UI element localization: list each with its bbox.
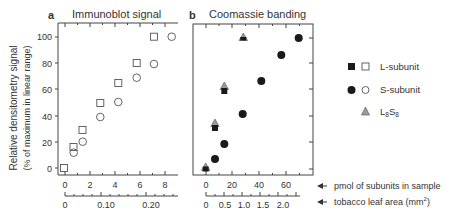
legend-item-l8s8: L8S8 [362, 106, 400, 118]
svg-text:4: 4 [112, 180, 117, 190]
svg-text:40: 40 [42, 112, 52, 122]
svg-text:L-subunit: L-subunit [380, 61, 419, 72]
svg-text:1.5: 1.5 [257, 200, 270, 210]
data-point [212, 125, 218, 131]
filled-square-icon [348, 63, 355, 70]
svg-text:0: 0 [203, 180, 208, 190]
svg-text:2.0: 2.0 [277, 200, 290, 210]
data-point [133, 74, 141, 82]
svg-text:0: 0 [62, 200, 67, 210]
open-circle-icon [362, 87, 369, 94]
triangle-icon [362, 107, 370, 115]
data-point [257, 77, 265, 85]
open-square-icon [362, 63, 369, 70]
data-point [79, 127, 86, 134]
y-axis-label: Relative densitometry signal [8, 45, 19, 170]
panel-b-letter: b [189, 9, 196, 21]
svg-text:0: 0 [47, 164, 52, 174]
svg-text:60: 60 [281, 180, 291, 190]
data-point [150, 60, 158, 68]
data-point [151, 33, 158, 40]
data-point [115, 98, 123, 106]
svg-text:L8S8: L8S8 [380, 106, 399, 118]
panel-b-series-s-subunit [211, 34, 303, 163]
svg-text:0: 0 [203, 200, 208, 210]
data-point [221, 88, 227, 94]
panel-b-title: Coomassie banding [209, 8, 306, 20]
svg-text:6: 6 [137, 180, 142, 190]
filled-circle-icon [348, 86, 356, 94]
data-point [277, 51, 285, 59]
data-point [240, 37, 246, 41]
svg-text:pmol of subunits in sample: pmol of subunits in sample [334, 181, 441, 191]
svg-text:0.20: 0.20 [142, 200, 160, 210]
svg-text:0.10: 0.10 [97, 200, 115, 210]
data-point [115, 80, 122, 87]
panel-b-series-l8s8 [202, 33, 248, 171]
svg-text:8: 8 [162, 180, 167, 190]
panel-a-axes [55, 23, 178, 196]
svg-text:60: 60 [42, 85, 52, 95]
data-point [79, 138, 87, 146]
y-tick-labels: 0 20 40 60 80 100 [37, 32, 52, 174]
svg-text:2: 2 [87, 180, 92, 190]
svg-text:1.0: 1.0 [238, 200, 251, 210]
data-point [133, 60, 140, 67]
panel-a-title: Immunoblot signal [72, 8, 161, 20]
panel-b-series-l-subunit [203, 37, 247, 172]
svg-text:40: 40 [254, 180, 264, 190]
data-point [97, 100, 104, 107]
svg-text:100: 100 [37, 32, 52, 42]
svg-text:20: 20 [42, 138, 52, 148]
figure: a Immunoblot signal b Coomassie banding … [0, 0, 453, 218]
panel-b-axes [193, 24, 313, 196]
svg-text:S-subunit: S-subunit [380, 84, 420, 95]
data-point [97, 113, 105, 121]
data-point [211, 155, 219, 163]
panel-a-letter: a [48, 9, 55, 21]
legend-item-s-subunit: S-subunit [348, 84, 421, 95]
data-point [220, 140, 228, 148]
legend-item-l-subunit: L-subunit [348, 61, 419, 72]
data-point [295, 34, 303, 42]
svg-text:tobacco leaf area (mm2): tobacco leaf area (mm2) [334, 196, 430, 207]
y-axis-sublabel: (% of maximum in linear range) [22, 45, 32, 170]
svg-text:0: 0 [62, 180, 67, 190]
data-point [203, 167, 209, 172]
svg-text:20: 20 [227, 180, 237, 190]
axis-note-primary: pmol of subunits in sample [317, 181, 441, 191]
panel-a-series-s-subunit [70, 33, 176, 157]
legend: L-subunit S-subunit L8S8 [348, 61, 421, 118]
panel-a-x-tick-labels: 0 2 4 6 8 0 0.10 0.20 [62, 180, 167, 210]
panel-a-series-l-subunit [61, 33, 158, 171]
svg-text:0.5: 0.5 [219, 200, 232, 210]
svg-text:80: 80 [42, 59, 52, 69]
data-point [239, 110, 247, 118]
data-point [61, 165, 68, 172]
data-point [168, 33, 176, 41]
axis-note-secondary: tobacco leaf area (mm2) [317, 196, 430, 207]
